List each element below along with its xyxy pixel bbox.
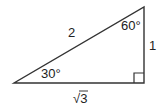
angle-30-label: 30° xyxy=(41,66,61,81)
horizontal-leg-label: √3 xyxy=(73,91,87,106)
hypotenuse-label: 2 xyxy=(68,25,75,40)
vertical-leg-label: 1 xyxy=(149,38,156,53)
right-angle-marker xyxy=(134,73,144,83)
right-triangle-diagram: 2 60° 1 30° √3 xyxy=(0,0,157,108)
angle-60-label: 60° xyxy=(121,18,141,33)
